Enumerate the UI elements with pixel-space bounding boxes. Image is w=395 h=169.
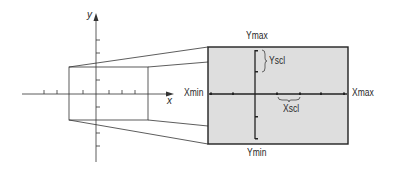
ymin-label: Ymin	[247, 148, 266, 158]
xscl-label: Xscl	[283, 104, 299, 114]
x-axis-label: x	[167, 96, 172, 106]
y-axis-arrow-icon	[94, 13, 99, 21]
ymax-label: Ymax	[246, 31, 268, 41]
xmin-label: Xmin	[184, 88, 203, 98]
window-rectangle	[69, 67, 148, 120]
yscl-label: Yscl	[269, 56, 285, 66]
y-axis-label: y	[87, 10, 92, 20]
xmax-label: Xmax	[352, 88, 374, 98]
diagram-canvas	[0, 0, 395, 169]
